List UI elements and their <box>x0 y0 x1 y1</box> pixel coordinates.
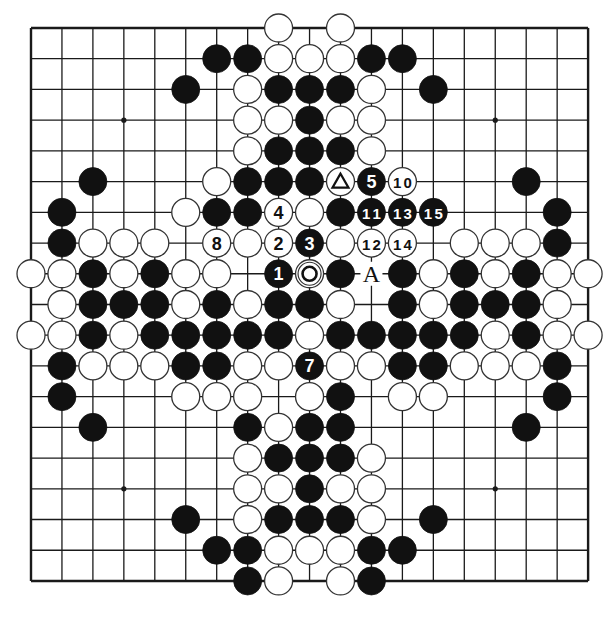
move-number: 8 <box>212 234 222 254</box>
black-stone <box>357 321 385 349</box>
black-stone <box>296 475 324 503</box>
black-stone <box>512 321 540 349</box>
white-stone: 8 <box>203 229 231 257</box>
white-stone <box>481 321 509 349</box>
black-stone <box>79 260 107 288</box>
white-stone <box>512 229 540 257</box>
white-stone <box>141 352 169 380</box>
black-stone <box>419 352 447 380</box>
white-stone <box>234 290 262 318</box>
black-stone: 11 <box>357 198 385 226</box>
white-stone <box>203 260 231 288</box>
black-stone <box>141 260 169 288</box>
white-stone <box>234 506 262 534</box>
white-stone <box>48 290 76 318</box>
white-stone <box>234 475 262 503</box>
white-stone <box>172 198 200 226</box>
white-stone <box>543 321 571 349</box>
black-stone <box>296 75 324 103</box>
black-stone <box>296 290 324 318</box>
black-stone <box>388 352 416 380</box>
black-stone <box>79 413 107 441</box>
black-stone <box>234 536 262 564</box>
black-stone <box>296 413 324 441</box>
white-stone <box>327 475 355 503</box>
black-stone <box>327 75 355 103</box>
white-stone <box>357 106 385 134</box>
move-number: 3 <box>305 234 315 254</box>
black-stone <box>234 413 262 441</box>
white-stone <box>172 260 200 288</box>
white-stone: 14 <box>388 229 416 257</box>
black-stone <box>543 229 571 257</box>
white-stone <box>574 260 602 288</box>
white-stone: 12 <box>357 229 385 257</box>
black-stone <box>265 137 293 165</box>
white-stone <box>327 536 355 564</box>
white-stone <box>79 229 107 257</box>
white-stone <box>327 168 355 196</box>
black-stone <box>327 198 355 226</box>
black-stone <box>79 290 107 318</box>
black-stone <box>48 383 76 411</box>
black-stone <box>512 290 540 318</box>
black-stone <box>388 45 416 73</box>
black-stone <box>265 290 293 318</box>
white-stone <box>265 352 293 380</box>
black-stone <box>234 168 262 196</box>
white-stone <box>327 352 355 380</box>
black-stone <box>481 290 509 318</box>
white-stone <box>481 260 509 288</box>
black-stone <box>265 75 293 103</box>
black-stone <box>543 198 571 226</box>
white-stone <box>141 229 169 257</box>
white-stone <box>419 383 447 411</box>
black-stone <box>388 260 416 288</box>
black-stone <box>419 321 447 349</box>
black-stone: 1 <box>265 260 293 288</box>
black-stone <box>172 506 200 534</box>
go-board-diagram: 5104111315823121417A <box>0 0 613 619</box>
white-stone <box>357 506 385 534</box>
black-stone: 7 <box>296 352 324 380</box>
black-stone <box>141 290 169 318</box>
white-stone <box>388 383 416 411</box>
white-stone <box>234 75 262 103</box>
black-stone <box>327 444 355 472</box>
black-stone <box>357 45 385 73</box>
white-stone <box>357 475 385 503</box>
star-point <box>493 486 498 491</box>
white-stone <box>234 352 262 380</box>
black-stone <box>203 45 231 73</box>
white-stone <box>48 321 76 349</box>
white-stone <box>419 290 447 318</box>
black-stone <box>543 352 571 380</box>
white-stone <box>512 352 540 380</box>
white-stone <box>110 260 138 288</box>
white-stone <box>234 383 262 411</box>
black-stone <box>327 321 355 349</box>
white-stone <box>172 383 200 411</box>
black-stone: 13 <box>388 198 416 226</box>
move-number: 2 <box>274 234 284 254</box>
black-stone <box>357 536 385 564</box>
white-stone <box>543 290 571 318</box>
white-stone <box>265 413 293 441</box>
black-stone <box>296 444 324 472</box>
white-stone: 4 <box>265 198 293 226</box>
black-stone <box>203 536 231 564</box>
black-stone <box>450 321 478 349</box>
white-stone <box>296 260 324 288</box>
white-stone <box>419 260 447 288</box>
white-stone <box>110 321 138 349</box>
black-stone <box>79 168 107 196</box>
white-stone <box>296 45 324 73</box>
black-stone <box>265 444 293 472</box>
black-stone <box>327 260 355 288</box>
move-number: 1 <box>274 264 284 284</box>
move-number: 14 <box>393 236 413 253</box>
white-stone <box>327 106 355 134</box>
black-stone <box>388 536 416 564</box>
black-stone <box>110 290 138 318</box>
white-stone <box>172 290 200 318</box>
